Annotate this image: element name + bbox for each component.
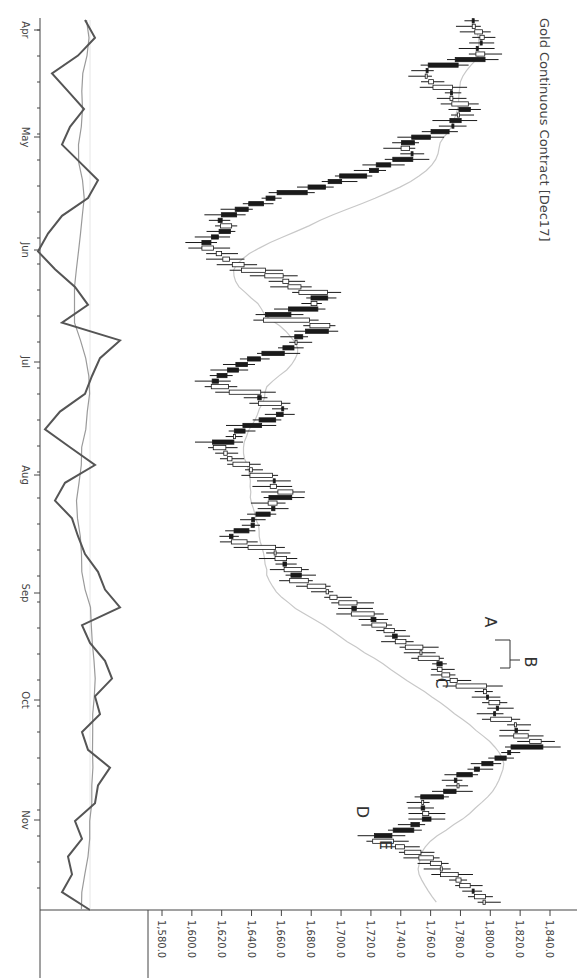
candle-up (299, 290, 328, 294)
candle-down (428, 63, 458, 67)
candle-down (411, 152, 413, 156)
candle-down (306, 329, 329, 333)
candle-down (202, 240, 211, 244)
candle-down (311, 296, 328, 300)
candle-up (484, 689, 487, 693)
candle-up (233, 434, 235, 438)
price-tick-label: 1,680.0 (305, 920, 316, 958)
candle-up (213, 446, 226, 450)
candle-up (441, 872, 459, 876)
price-tick-label: 1,720.0 (365, 920, 376, 958)
chart-canvas: AprMayJunJulAugSepOctNov 1,580.01,600.01… (0, 0, 577, 978)
candle-down (411, 823, 419, 827)
candle-up (295, 340, 297, 344)
candle-down (393, 634, 398, 638)
candle-up (395, 640, 406, 644)
candle-up (372, 623, 387, 627)
candle-up (442, 673, 450, 677)
candle-down (273, 479, 275, 483)
candle-down (276, 412, 283, 416)
candle-up (456, 878, 461, 882)
date-tick-label: Sep (20, 584, 31, 603)
price-tick-label: 1,780.0 (454, 920, 465, 958)
candle-up (514, 723, 516, 727)
candle-down (212, 379, 218, 383)
price-tick-label: 1,800.0 (484, 920, 495, 958)
annotation-label-d: D (353, 806, 372, 818)
candle-up (227, 457, 232, 461)
candle-down (340, 174, 367, 178)
candle-down (401, 141, 414, 145)
candle-down (258, 396, 261, 400)
candle-down (308, 185, 325, 189)
candle-down (218, 218, 222, 222)
candle-down (472, 889, 474, 893)
price-tick-label: 1,740.0 (395, 920, 406, 958)
candle-up (270, 484, 276, 488)
candle-up (283, 279, 289, 283)
candle-down (451, 91, 453, 95)
date-tick-label: Oct (20, 691, 31, 708)
annotations-group: ABCDE (353, 617, 540, 851)
candle-down (482, 762, 493, 766)
candle-down (369, 168, 378, 172)
candle-down (376, 163, 390, 167)
candle-down (282, 407, 284, 411)
candle-down (259, 418, 276, 422)
candle-up (339, 601, 357, 605)
oscillator-slow-line (75, 20, 96, 910)
candle-up (476, 52, 485, 56)
candle-down (476, 46, 478, 50)
candle-down (508, 750, 511, 754)
candle-down (256, 512, 270, 516)
candle-down (213, 440, 234, 444)
moving-average-line (234, 21, 504, 902)
price-tick-label: 1,600.0 (186, 920, 197, 958)
candle-down (444, 789, 456, 793)
candle-down (455, 57, 485, 61)
candle-down (283, 562, 287, 566)
indicator-panel (38, 20, 120, 910)
candle-up (250, 468, 253, 472)
candle-up (514, 734, 528, 738)
candle-down (221, 213, 236, 217)
candle-up (396, 845, 405, 849)
candle-up (437, 667, 442, 671)
candle-up (216, 252, 221, 256)
candle-up (450, 96, 453, 100)
candle-down (452, 124, 454, 128)
price-tick-label: 1,640.0 (246, 920, 257, 958)
candle-down (437, 662, 442, 666)
candle-down (272, 507, 275, 511)
annotation-label-b: B (521, 657, 540, 668)
candle-up (430, 861, 441, 865)
candle-up (422, 800, 424, 804)
price-tick-label: 1,660.0 (275, 920, 286, 958)
candle-up (472, 24, 475, 28)
candle-up (274, 551, 276, 555)
candle-down (450, 118, 461, 122)
candle-up (405, 850, 421, 854)
candle-up (429, 80, 434, 84)
candle-up (433, 85, 452, 89)
candle-up (263, 318, 309, 322)
candle-up (483, 900, 485, 904)
candle-down (431, 130, 449, 134)
date-tick-label: Nov (20, 810, 31, 830)
candle-up (202, 246, 214, 250)
candle-up (456, 684, 486, 688)
moving-average-polyline (234, 21, 504, 902)
candle-down (422, 817, 431, 821)
candle-down (393, 828, 414, 832)
candle-up (440, 867, 442, 871)
candle-up (223, 257, 230, 261)
gold-candlestick-chart: AprMayJunJulAugSepOctNov 1,580.01,600.01… (0, 0, 577, 978)
candle-down (217, 373, 227, 377)
candle-down (243, 423, 262, 427)
candle-down (328, 179, 341, 183)
candle-up (419, 856, 433, 860)
candle-up (530, 739, 542, 743)
candle-up (452, 102, 469, 106)
candle-up (231, 540, 247, 544)
candle-down (371, 617, 376, 621)
